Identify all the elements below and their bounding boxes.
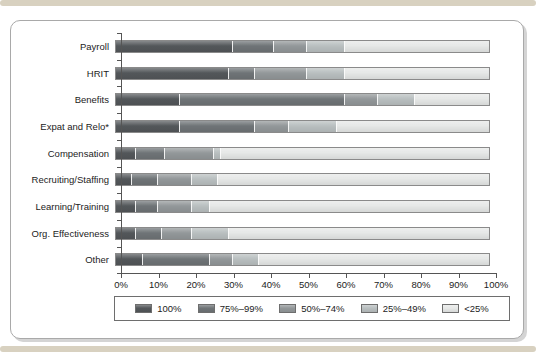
page: PayrollHRITBenefitsExpat and Relo*Compen…	[0, 0, 536, 352]
x-axis-tick	[121, 274, 122, 278]
bar-row: Payroll	[11, 33, 497, 60]
stacked-bar	[115, 120, 490, 133]
bar-segment	[220, 148, 489, 159]
category-label: Recruiting/Staffing	[11, 174, 115, 185]
y-axis-tick	[117, 220, 121, 221]
category-label: HRIT	[11, 68, 115, 79]
bar-segment	[273, 41, 307, 52]
bar-segment	[157, 201, 191, 212]
bar-segment	[209, 254, 231, 265]
bar-row: Org. Effectiveness	[11, 220, 497, 247]
legend-label: 100%	[157, 303, 181, 314]
legend-swatch	[279, 304, 296, 313]
bar-segment	[179, 121, 254, 132]
y-axis-tick	[117, 167, 121, 168]
category-label: Payroll	[11, 41, 115, 52]
x-axis-label: 90%	[449, 279, 468, 290]
bar-segment	[191, 228, 228, 239]
x-axis-label: 40%	[261, 279, 280, 290]
bar-segment	[232, 254, 258, 265]
legend-item: 25%–49%	[361, 303, 426, 314]
legend-swatch	[361, 304, 378, 313]
x-axis-ticks: 0%10%20%30%40%50%60%70%80%90%100%	[121, 273, 496, 289]
bar-segment	[288, 121, 336, 132]
y-axis-tick	[117, 140, 121, 141]
chart-legend: 100%75%–99%50%–74%25%–49%<25%	[114, 296, 510, 321]
y-axis-tick	[117, 193, 121, 194]
bar-segment	[336, 121, 489, 132]
bar-segment	[254, 121, 288, 132]
bar-segment	[135, 148, 165, 159]
top-decor-strip	[0, 0, 536, 6]
bar-segment	[116, 41, 232, 52]
bar-track	[115, 93, 490, 106]
y-axis-tick	[117, 86, 121, 87]
x-axis-label: 0%	[114, 279, 128, 290]
x-axis-label: 30%	[224, 279, 243, 290]
bar-segment	[135, 228, 161, 239]
x-axis-label: 50%	[299, 279, 318, 290]
legend-item: <25%	[442, 303, 489, 314]
bar-track	[115, 40, 490, 53]
bar-segment	[344, 68, 489, 79]
bar-segment	[191, 201, 210, 212]
x-axis-label: 10%	[149, 279, 168, 290]
stacked-bar	[115, 200, 490, 213]
y-axis-line	[121, 33, 122, 273]
bar-segment	[116, 94, 179, 105]
x-axis-label: 60%	[336, 279, 355, 290]
x-axis-label: 20%	[186, 279, 205, 290]
legend-label: 25%–49%	[383, 303, 426, 314]
bar-segment	[131, 174, 157, 185]
bar-row: HRIT	[11, 60, 497, 87]
y-axis-tick	[117, 33, 121, 34]
x-axis-tick	[196, 274, 197, 278]
x-axis-tick	[309, 274, 310, 278]
stacked-bar	[115, 253, 490, 266]
bar-track	[115, 200, 490, 213]
bar-row: Benefits	[11, 86, 497, 113]
bottom-decor-strip	[0, 346, 536, 352]
bar-row: Recruiting/Staffing	[11, 166, 497, 193]
y-axis-tick	[117, 60, 121, 61]
bar-segment	[161, 228, 191, 239]
bar-segment	[306, 41, 343, 52]
bar-segment	[228, 68, 254, 79]
bar-segment	[344, 41, 489, 52]
x-axis-tick	[421, 274, 422, 278]
chart-card: PayrollHRITBenefitsExpat and Relo*Compen…	[10, 20, 524, 339]
legend-label: 50%–74%	[301, 303, 344, 314]
category-label: Org. Effectiveness	[11, 228, 115, 239]
stacked-bar	[115, 173, 490, 186]
bar-segment	[116, 174, 131, 185]
x-axis-tick	[271, 274, 272, 278]
bar-segment	[116, 201, 135, 212]
bar-segment	[116, 254, 142, 265]
category-label: Learning/Training	[11, 201, 115, 212]
legend-label: <25%	[464, 303, 489, 314]
bar-segment	[179, 94, 343, 105]
x-axis-tick	[234, 274, 235, 278]
bar-segment	[258, 254, 489, 265]
stacked-bar	[115, 40, 490, 53]
x-axis-tick	[346, 274, 347, 278]
legend-swatch	[442, 304, 459, 313]
bar-segment	[254, 68, 306, 79]
bar-segment	[209, 201, 489, 212]
bar-segment	[157, 174, 191, 185]
bar-segment	[232, 41, 273, 52]
bar-row: Compensation	[11, 140, 497, 167]
bar-segment	[414, 94, 489, 105]
bar-segment	[228, 228, 489, 239]
bar-track	[115, 67, 490, 80]
bar-track	[115, 120, 490, 133]
bar-track	[115, 147, 490, 160]
bar-segment	[344, 94, 378, 105]
bar-segment	[213, 148, 220, 159]
bar-track	[115, 253, 490, 266]
y-axis-tick	[117, 113, 121, 114]
stacked-bar	[115, 227, 490, 240]
legend-item: 50%–74%	[279, 303, 344, 314]
category-label: Benefits	[11, 94, 115, 105]
bar-segment	[116, 68, 228, 79]
